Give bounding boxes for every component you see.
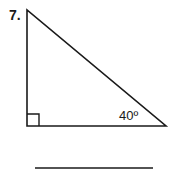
right-angle-marker (27, 114, 39, 126)
angle-label: 40º (119, 108, 138, 123)
right-triangle (27, 10, 166, 126)
triangle-diagram (0, 0, 180, 175)
